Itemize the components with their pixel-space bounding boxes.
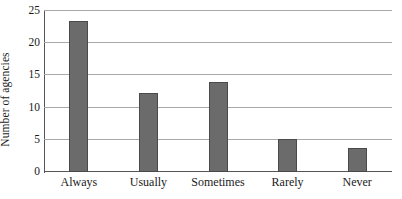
x-tick-label: Sometimes [191,176,244,188]
x-tick-label: Usually [130,176,167,188]
gridline [44,42,392,43]
y-tick-label: 5 [18,134,40,146]
bar [69,21,88,172]
bar-chart: Number of agencies 2520151050 AlwaysUsua… [0,0,402,199]
y-axis-title: Number of agencies [0,0,18,199]
bar [278,139,297,172]
gridline [44,10,392,11]
x-axis-tick-labels: AlwaysUsuallySometimesRarelyNever [44,176,392,196]
y-tick-label: 15 [18,70,40,82]
y-axis-tick-labels: 2520151050 [18,0,40,199]
bar [348,148,367,172]
y-tick-label: 25 [18,5,40,17]
y-tick-label: 20 [18,37,40,49]
x-tick-label: Always [60,176,97,188]
bar [209,82,228,172]
bar [139,93,158,172]
x-tick-label: Never [343,176,372,188]
y-tick-label: 10 [18,102,40,114]
plot-area [44,11,392,172]
x-tick-label: Rarely [272,176,304,188]
gridline [44,74,392,75]
y-tick-label: 0 [18,166,40,178]
